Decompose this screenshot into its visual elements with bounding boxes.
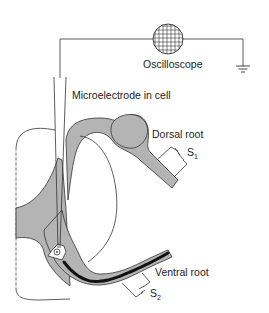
dorsal-root-label: Dorsal root [152, 128, 203, 140]
ventral-root-label: Ventral root [155, 266, 209, 278]
stimulator-s1-label: S1 [187, 146, 198, 160]
s2-letter: S [150, 287, 157, 299]
stimulator-s2-label: S2 [150, 287, 161, 301]
microelectrode-label: Microelectrode in cell [72, 89, 171, 101]
oscilloscope-icon [153, 24, 183, 54]
s1-letter: S [187, 146, 194, 158]
recording-wire [60, 39, 153, 78]
ground-icon [236, 66, 250, 72]
nucleolus [56, 251, 58, 253]
s2-subscript: 2 [157, 294, 161, 301]
s1-subscript: 1 [194, 153, 198, 160]
white-matter-boundary [80, 136, 117, 262]
spinal-cord-recording-diagram: Oscilloscope Microelectrode in cell Dors… [0, 0, 269, 313]
oscilloscope-label: Oscilloscope [143, 58, 203, 70]
